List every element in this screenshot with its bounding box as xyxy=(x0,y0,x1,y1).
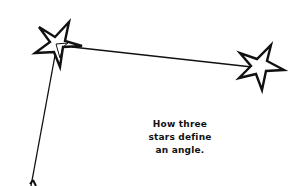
right-star-icon xyxy=(239,45,284,90)
angle-diagram xyxy=(0,0,296,186)
diagram-caption: How three stars define an angle. xyxy=(138,118,222,157)
ray-to-right-star xyxy=(72,47,252,67)
caption-line-3: an angle. xyxy=(138,144,222,157)
ray-to-bottom-star xyxy=(31,50,56,186)
vertex-star-icon xyxy=(35,22,82,67)
caption-line-1: How three xyxy=(138,118,222,131)
caption-line-2: stars define xyxy=(138,131,222,144)
